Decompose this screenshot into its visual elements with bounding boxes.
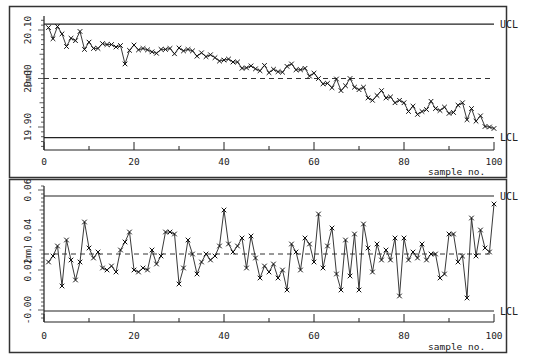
data-point-marker xyxy=(343,83,348,88)
x-axis: 020406080100 xyxy=(41,142,503,167)
data-point-marker xyxy=(424,107,429,112)
data-point-marker xyxy=(141,266,146,271)
x-tick-label: 20 xyxy=(128,156,140,167)
x-tick-label: 100 xyxy=(485,330,502,341)
data-point-marker xyxy=(478,114,483,119)
data-point-marker xyxy=(330,85,335,90)
data-point-marker xyxy=(303,66,308,71)
data-point-marker xyxy=(267,70,272,75)
data-point-marker xyxy=(123,240,128,245)
data-point-marker xyxy=(199,50,204,55)
data-point-marker xyxy=(46,25,51,30)
x-tick-label: 60 xyxy=(308,330,320,341)
data-point-marker xyxy=(370,98,375,103)
data-point-marker xyxy=(154,262,159,267)
data-point-marker xyxy=(406,109,411,114)
data-point-marker xyxy=(379,88,384,93)
data-point-marker xyxy=(312,71,317,76)
data-point-marker xyxy=(109,264,114,269)
data-point-marker xyxy=(136,48,141,53)
data-point-marker xyxy=(208,258,213,263)
data-point-marker xyxy=(271,262,276,267)
data-point-marker xyxy=(91,256,96,261)
data-point-marker xyxy=(235,244,240,249)
data-point-marker xyxy=(393,100,398,105)
data-point-marker xyxy=(186,47,191,52)
data-markers xyxy=(46,202,496,301)
data-point-marker xyxy=(285,64,290,69)
data-line xyxy=(49,204,495,298)
y-tick-label: 19.90 xyxy=(22,112,33,141)
data-point-marker xyxy=(361,85,366,90)
y-tick-label: -0.00 xyxy=(22,295,33,324)
data-point-marker xyxy=(132,43,137,48)
data-point-marker xyxy=(136,270,141,275)
data-point-marker xyxy=(442,105,447,110)
data-point-marker xyxy=(276,276,281,281)
data-point-marker xyxy=(51,36,56,41)
y-tick-label: 0.04 xyxy=(22,218,33,241)
data-point-marker xyxy=(474,119,479,124)
panel-frame xyxy=(10,180,507,353)
data-point-marker xyxy=(253,67,258,72)
chart-svg: UCL LCL 19.9020.0020.10 020406080100 [mm… xyxy=(0,0,536,356)
x-tick-label: 40 xyxy=(218,156,230,167)
y-axis-label: [mm] xyxy=(24,244,33,263)
x-axis: 020406080100 xyxy=(41,314,503,341)
data-point-marker xyxy=(438,108,443,113)
data-point-marker xyxy=(141,46,146,51)
data-point-marker xyxy=(181,49,186,54)
data-line xyxy=(49,27,495,129)
data-point-marker xyxy=(195,54,200,59)
data-point-marker xyxy=(213,55,218,60)
data-point-marker xyxy=(411,104,416,109)
data-point-marker xyxy=(208,52,213,57)
data-point-marker xyxy=(87,40,92,45)
data-point-marker xyxy=(172,51,177,56)
range-chart-panel: UCL LCL -0.000.020.040.06 020406080100 [… xyxy=(10,178,519,352)
data-point-marker xyxy=(429,99,434,104)
data-point-marker xyxy=(456,103,461,108)
ucl-label: UCL xyxy=(500,19,518,30)
data-point-marker xyxy=(352,85,357,90)
data-point-marker xyxy=(357,87,362,92)
data-point-marker xyxy=(420,109,425,114)
data-point-marker xyxy=(271,67,276,72)
data-point-marker xyxy=(469,106,474,111)
x-tick-label: 80 xyxy=(398,330,410,341)
data-point-marker xyxy=(55,24,60,29)
data-point-marker xyxy=(69,36,74,41)
y-tick-label: 20.10 xyxy=(22,15,33,44)
x-tick-label: 80 xyxy=(398,156,410,167)
data-point-marker xyxy=(384,248,389,253)
data-point-marker xyxy=(105,268,110,273)
data-point-marker xyxy=(307,74,312,79)
data-point-marker xyxy=(375,93,380,98)
x-axis-label: sample no. xyxy=(428,341,485,352)
data-point-marker xyxy=(262,63,267,68)
data-point-marker xyxy=(114,45,119,50)
data-point-marker xyxy=(289,62,294,67)
data-point-marker xyxy=(177,46,182,51)
data-point-marker xyxy=(73,38,78,43)
data-point-marker xyxy=(258,68,263,73)
control-chart-figure: UCL LCL 19.9020.0020.10 020406080100 [mm… xyxy=(0,0,536,356)
x-tick-label: 0 xyxy=(41,156,47,167)
x-axis-label: sample no. xyxy=(428,166,485,177)
data-point-marker xyxy=(60,32,65,37)
data-point-marker xyxy=(150,50,155,55)
data-point-marker xyxy=(127,48,132,53)
y-tick-label: 0.06 xyxy=(22,178,33,201)
data-point-marker xyxy=(433,106,438,111)
x-tick-label: 20 xyxy=(128,330,140,341)
x-tick-label: 100 xyxy=(485,156,502,167)
data-point-marker xyxy=(402,100,407,105)
y-axis-label: [mm] xyxy=(24,69,33,88)
data-point-marker xyxy=(339,88,344,93)
data-point-marker xyxy=(190,49,195,54)
data-point-marker xyxy=(154,51,159,56)
xbar-chart-panel: UCL LCL 19.9020.0020.10 020406080100 [mm… xyxy=(10,7,519,178)
data-point-marker xyxy=(397,98,402,103)
lcl-label: LCL xyxy=(500,306,518,317)
panel-frame xyxy=(10,7,507,178)
